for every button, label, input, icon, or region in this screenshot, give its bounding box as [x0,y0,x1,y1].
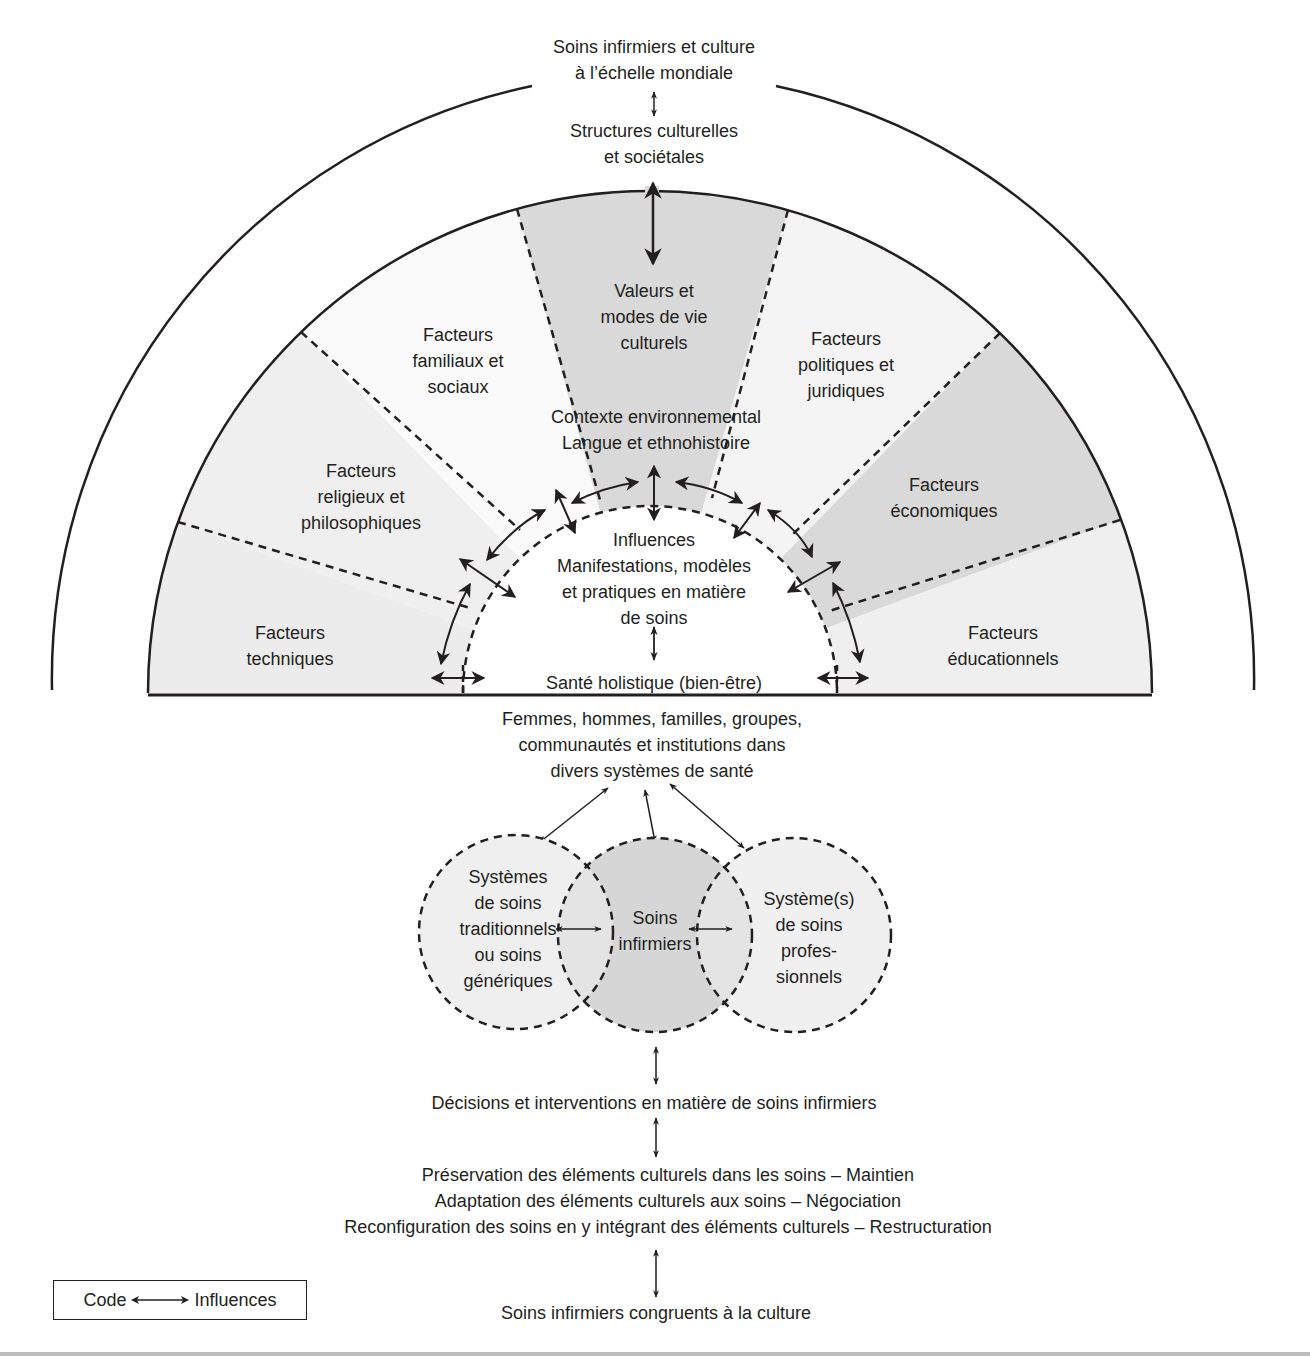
footer-rule [0,1352,1310,1356]
influence-arrow-professional [670,784,744,848]
holistic-health-label: Santé holistique (bien-être) [546,670,762,696]
influence-arrow-nursing [645,790,655,842]
culturally-congruent-care-label: Soins infirmiers congruents à la culture [501,1300,811,1326]
legend-code-label: Code [83,1290,126,1311]
double-arrow-icon [130,1293,190,1307]
global-title: Soins infirmiers et culture à l’échelle … [553,34,755,86]
sector-label-educationnels: Facteurs éducationnels [947,620,1058,672]
people-institutions-label: Femmes, hommes, familles, groupes, commu… [502,706,802,784]
sector-label-familiaux: Facteurs familiaux et sociaux [412,322,503,400]
environmental-context-label: Contexte environnemental Langue et ethno… [551,404,761,456]
legend-box: Code Influences [53,1280,307,1320]
sector-label-valeurs: Valeurs et modes de vie culturels [600,278,707,356]
circle-label-professional: Système(s) de soins profes- sionnels [763,886,854,990]
sector-label-politiques: Facteurs politiques et juridiques [798,326,894,404]
cultural-structures-label: Structures culturelles et sociétales [570,118,738,170]
sector-label-techniques: Facteurs techniques [246,620,333,672]
care-influences-label: Influences Manifestations, modèles et pr… [557,527,751,631]
influence-arrow-traditional [540,788,608,842]
legend-influences-label: Influences [194,1290,276,1311]
circle-label-traditional: Systèmes de soins traditionnels ou soins… [459,864,556,994]
care-modes-label: Préservation des éléments culturels dans… [344,1162,991,1240]
sector-label-religieux: Facteurs religieux et philosophiques [301,458,421,536]
nursing-decisions-label: Décisions et interventions en matière de… [431,1090,876,1116]
sector-label-economiques: Facteurs économiques [890,472,997,524]
circle-label-nursing: Soins infirmiers [618,905,691,957]
